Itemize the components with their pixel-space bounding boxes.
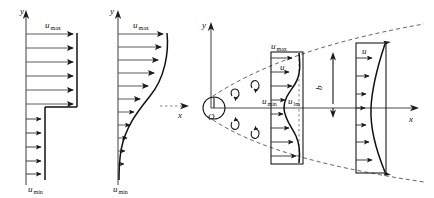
panel2-y-axis-label: y bbox=[109, 6, 114, 16]
vortex-icon bbox=[251, 81, 259, 90]
panel2-umax-subscript: max bbox=[139, 25, 149, 31]
panel2-profile-curve bbox=[119, 33, 167, 180]
panel3-x-axis-label: x bbox=[408, 114, 413, 124]
panel3-near-section: u max u u min u lm bbox=[262, 41, 303, 164]
near-ulm-label: u bbox=[288, 96, 293, 106]
near-umin-subscript: min bbox=[268, 101, 277, 107]
vortex-icon bbox=[231, 120, 239, 129]
panel2-x-axis-label: x bbox=[177, 110, 182, 120]
panel2-umin-label: u bbox=[113, 184, 118, 194]
panel-3-jet-spreading-diagram: O u max u bbox=[201, 20, 424, 182]
near-ulm-subscript: lm bbox=[294, 101, 301, 107]
figure-canvas: y u max u min y x u max u min bbox=[0, 0, 434, 198]
panel1-umax-label: u bbox=[45, 20, 50, 30]
near-u-label: u bbox=[280, 62, 285, 72]
panel3-upper-boundary bbox=[213, 24, 424, 96]
panel3-vortex-group bbox=[231, 81, 259, 139]
panel-1-uniform-step-velocity-profile: y u max u min bbox=[19, 6, 77, 195]
panel1-umin-label: u bbox=[28, 184, 33, 194]
near-umax-label: u bbox=[271, 41, 276, 51]
far-u-label: u bbox=[362, 46, 367, 56]
panel3-origin-label: O bbox=[208, 112, 215, 122]
panel1-umax-subscript: max bbox=[51, 25, 61, 31]
vortex-icon bbox=[231, 89, 239, 98]
panel2-umax-label: u bbox=[133, 20, 138, 30]
near-umin-label: u bbox=[262, 96, 267, 106]
panel-2-s-curve-velocity-profile: y x u max u min bbox=[109, 6, 189, 195]
width-label-b: b bbox=[314, 85, 324, 90]
jet-velocity-profile-figure: y u max u min y x u max u min bbox=[0, 0, 434, 198]
panel2-umin-subscript: min bbox=[119, 189, 128, 195]
panel3-y-axis-label: y bbox=[201, 20, 206, 30]
panel1-umin-subscript: min bbox=[34, 189, 43, 195]
panel3-lower-boundary bbox=[213, 120, 424, 182]
vortex-icon bbox=[251, 129, 259, 138]
near-umax-subscript: max bbox=[277, 46, 287, 52]
panel1-y-axis-label: y bbox=[19, 6, 24, 16]
